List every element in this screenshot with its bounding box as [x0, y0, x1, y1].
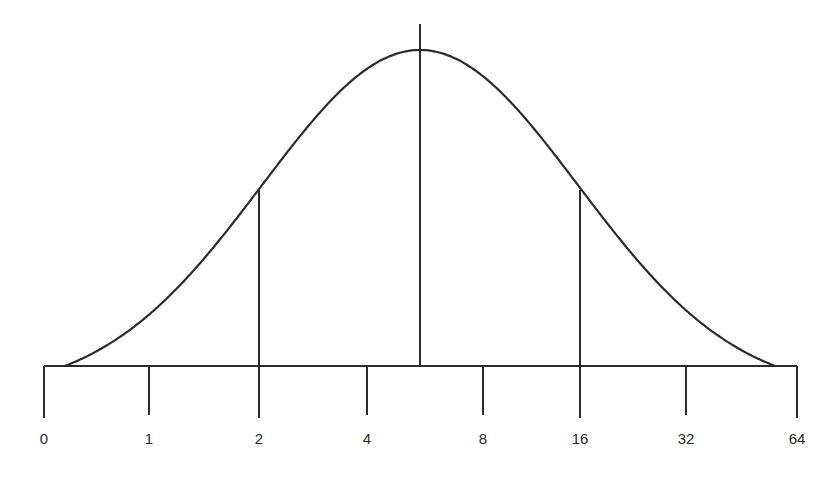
reference-lines	[259, 24, 580, 366]
tick-label: 1	[145, 430, 153, 447]
bell-curve-diagram: 01248163264	[0, 0, 839, 481]
distribution-curve	[58, 50, 776, 366]
tick-labels: 01248163264	[40, 430, 806, 447]
tick-label: 16	[572, 430, 589, 447]
tick-label: 32	[678, 430, 695, 447]
tick-label: 2	[255, 430, 263, 447]
x-axis	[44, 366, 797, 418]
tick-label: 64	[789, 430, 806, 447]
tick-label: 4	[363, 430, 371, 447]
tick-label: 0	[40, 430, 48, 447]
tick-label: 8	[479, 430, 487, 447]
bell-curve	[58, 50, 776, 366]
